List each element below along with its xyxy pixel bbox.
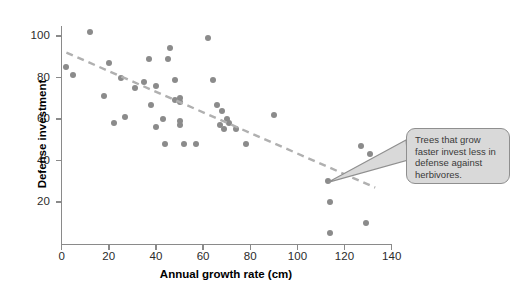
y-axis-line [61, 26, 62, 245]
data-point [167, 45, 173, 51]
data-point [210, 77, 216, 83]
x-tick-label: 0 [45, 250, 79, 262]
x-tick-label: 140 [375, 250, 409, 262]
y-tick-mark [56, 118, 62, 119]
data-point [165, 56, 171, 62]
data-point [87, 29, 93, 35]
x-tick-label: 120 [328, 250, 362, 262]
y-tick-mark [56, 160, 62, 161]
data-point [101, 93, 107, 99]
data-point [358, 143, 364, 149]
x-tick-label: 20 [92, 250, 126, 262]
data-point [146, 56, 152, 62]
data-point [153, 83, 159, 89]
data-point [367, 151, 373, 157]
data-point [193, 141, 199, 147]
data-point [106, 60, 112, 66]
data-point [205, 35, 211, 41]
data-point [325, 178, 331, 184]
data-point [327, 230, 333, 236]
data-point [111, 120, 117, 126]
data-point [162, 141, 168, 147]
data-point [118, 75, 124, 81]
data-point [226, 120, 232, 126]
x-tick-label: 60 [186, 250, 220, 262]
x-axis-title: Annual growth rate (cm) [0, 268, 452, 280]
data-point [233, 126, 239, 132]
figure-scatter-plot: 20406080100 020406080100120140 Annual gr… [0, 0, 520, 288]
data-point [153, 124, 159, 130]
callout-box: Trees that grow faster invest less in de… [406, 128, 510, 184]
y-tick-mark [56, 201, 62, 202]
data-point [177, 122, 183, 128]
y-tick-mark [56, 35, 62, 36]
data-point [271, 112, 277, 118]
data-point [181, 141, 187, 147]
data-point [214, 102, 220, 108]
data-point [160, 116, 166, 122]
x-tick-label: 40 [139, 250, 173, 262]
data-point [148, 102, 154, 108]
data-point [172, 77, 178, 83]
data-point [122, 114, 128, 120]
data-point [327, 199, 333, 205]
data-point [243, 141, 249, 147]
data-point [132, 85, 138, 91]
data-point [221, 126, 227, 132]
x-axis-line [61, 244, 392, 245]
x-tick-label: 100 [280, 250, 314, 262]
x-tick-label: 80 [233, 250, 267, 262]
data-point [70, 72, 76, 78]
y-tick-mark [56, 77, 62, 78]
data-point [63, 64, 69, 70]
data-point [363, 220, 369, 226]
callout-text: Trees that grow faster invest less in de… [415, 134, 505, 180]
data-point [141, 79, 147, 85]
y-axis-title: Defense investment [36, 39, 48, 229]
data-point [219, 108, 225, 114]
data-point [177, 95, 183, 101]
